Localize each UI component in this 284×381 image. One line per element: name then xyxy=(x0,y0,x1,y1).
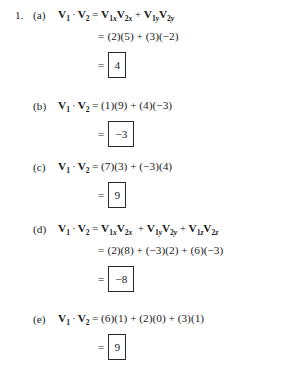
answer-box-b: −3 xyxy=(108,121,134,147)
dot-operator: · xyxy=(70,99,78,111)
lhs-expression-d: V1·V2 xyxy=(58,222,90,235)
numeric-expression-d: (2)(8) + (−3)(2) + (6)(−3) xyxy=(107,244,223,256)
part-e-line-1: V1·V2=(6)(1) + (2)(0) + (3)(1) xyxy=(58,312,204,324)
numeric-expression-c: (7)(3) + (−3)(4) xyxy=(101,160,172,172)
lhs-expression-c: V1·V2 xyxy=(58,160,90,173)
answer-box-a: 4 xyxy=(108,52,126,78)
part-label-a: (a) xyxy=(33,8,46,23)
equals-sign: = xyxy=(90,312,101,324)
numeric-expression-a: (2)(5) + (3)(−2) xyxy=(107,30,178,42)
part-label-d: (d) xyxy=(33,222,46,237)
part-label-c: (c) xyxy=(33,160,46,175)
vector-v2: V2 xyxy=(78,8,90,20)
part-d-line-1: V1·V2=V1xV2x+V1yV2y+V1zV2z xyxy=(58,222,218,234)
document-page: 1. (a) V1·V2=V1xV2x+V1yV2y =(2)(5) + (3)… xyxy=(0,0,284,381)
part-b-line-1: V1·V2=(1)(9) + (4)(−3) xyxy=(58,99,172,111)
part-d-line-3: = −8 xyxy=(98,266,134,292)
equals-sign: = xyxy=(98,52,108,78)
part-d-line-2: =(2)(8) + (−3)(2) + (6)(−3) xyxy=(98,244,223,256)
equals-sign: = xyxy=(98,334,108,360)
equals-sign: = xyxy=(90,99,101,111)
problem-number: 1. xyxy=(15,8,23,23)
lhs-expression-a: V1·V2 xyxy=(58,8,90,21)
lhs-expression-b: V1·V2 xyxy=(58,99,90,112)
dot-operator: · xyxy=(70,222,78,234)
answer-box-d: −8 xyxy=(108,266,134,292)
part-c-line-2: = 9 xyxy=(98,182,126,208)
dot-operator: · xyxy=(70,8,78,20)
equals-sign: = xyxy=(98,182,108,208)
answer-box-c: 9 xyxy=(108,182,126,208)
part-c-line-1: V1·V2=(7)(3) + (−3)(4) xyxy=(58,160,172,172)
part-label-b: (b) xyxy=(33,99,46,114)
part-a-line-1: V1·V2=V1xV2x+V1yV2y xyxy=(58,8,174,20)
vector-v1: V1 xyxy=(58,8,70,20)
part-a-line-3: = 4 xyxy=(98,52,126,78)
equals-sign: = xyxy=(98,30,107,42)
equals-sign: = xyxy=(90,160,101,172)
rhs-vector-formula-a: V1xV2x+V1yV2y xyxy=(101,8,174,20)
part-label-e: (e) xyxy=(33,312,46,327)
answer-box-e: 9 xyxy=(108,334,126,360)
vector-v2: V2 xyxy=(78,312,90,324)
vector-v2: V2 xyxy=(78,222,90,234)
equals-sign: = xyxy=(90,222,101,234)
vector-v2: V2 xyxy=(78,160,90,172)
part-a-line-2: =(2)(5) + (3)(−2) xyxy=(98,30,178,42)
numeric-expression-e: (6)(1) + (2)(0) + (3)(1) xyxy=(101,312,204,324)
part-e-line-2: = 9 xyxy=(98,334,126,360)
dot-operator: · xyxy=(70,312,78,324)
equals-sign: = xyxy=(98,244,107,256)
equals-sign: = xyxy=(90,8,101,20)
equals-sign: = xyxy=(98,121,108,147)
vector-v1: V1 xyxy=(58,312,70,324)
vector-v1: V1 xyxy=(58,160,70,172)
equals-sign: = xyxy=(98,266,108,292)
numeric-expression-b: (1)(9) + (4)(−3) xyxy=(101,99,172,111)
vector-v2: V2 xyxy=(78,99,90,111)
lhs-expression-e: V1·V2 xyxy=(58,312,90,325)
rhs-vector-formula-d: V1xV2x+V1yV2y+V1zV2z xyxy=(101,222,218,234)
vector-v1: V1 xyxy=(58,222,70,234)
dot-operator: · xyxy=(70,160,78,172)
part-b-line-2: = −3 xyxy=(98,121,134,147)
vector-v1: V1 xyxy=(58,99,70,111)
